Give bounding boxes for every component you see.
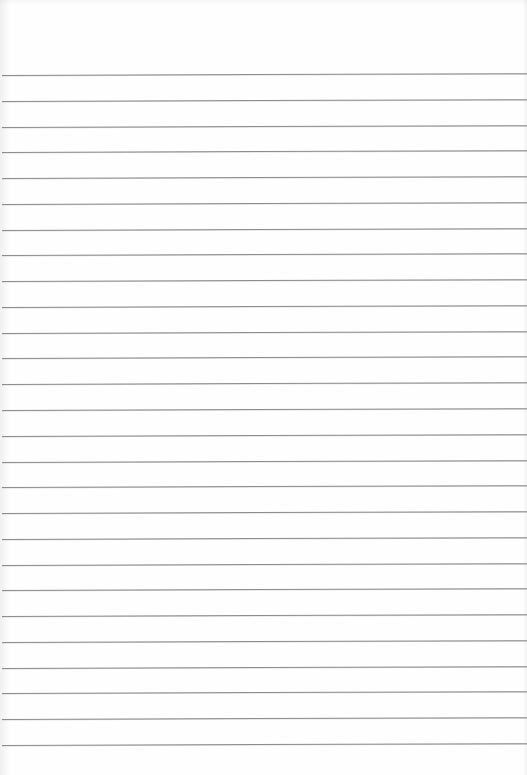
ruled-line (2, 614, 527, 617)
ruled-lines (0, 0, 527, 775)
ruled-line (2, 460, 527, 463)
ruled-line (2, 73, 527, 76)
ruled-line (2, 125, 527, 128)
ruled-line (2, 356, 527, 359)
ruled-line (2, 228, 527, 231)
ruled-line (2, 743, 527, 746)
ruled-line (2, 485, 527, 488)
ruled-line (2, 305, 527, 308)
ruled-line (2, 511, 527, 514)
ruled-line (2, 640, 527, 643)
ruled-line (2, 537, 527, 540)
ruled-line (2, 202, 527, 205)
ruled-line (2, 331, 527, 334)
ruled-line (2, 563, 527, 566)
ruled-line (2, 253, 527, 256)
ruled-line (2, 176, 527, 179)
ruled-line (2, 666, 527, 669)
ruled-line (2, 588, 527, 591)
ruled-line (2, 99, 527, 102)
ruled-line (2, 691, 527, 694)
ruled-line (2, 382, 527, 385)
ruled-line (2, 717, 527, 720)
lined-paper-page (0, 0, 527, 775)
ruled-line (2, 408, 527, 411)
ruled-line (2, 279, 527, 282)
ruled-line (2, 434, 527, 437)
ruled-line (2, 150, 527, 153)
